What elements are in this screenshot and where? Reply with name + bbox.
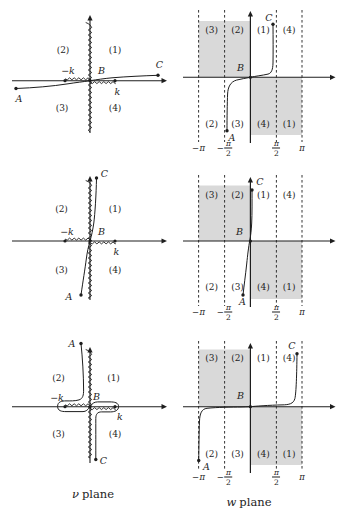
point-C-dot (94, 458, 97, 461)
tick-fraction-numerator: π (272, 140, 280, 149)
band-label-bottom-2: (3) (231, 450, 244, 459)
point-C-dot (95, 176, 98, 179)
point-C-dot (156, 74, 159, 77)
quadrant-label-4: (4) (109, 104, 122, 113)
point-minus-k-dot (63, 405, 66, 408)
tick-fraction: π2 (272, 140, 280, 157)
tick-minus-sign: − (192, 473, 199, 482)
y-axis-arrow (248, 11, 253, 17)
band-label-top-1: (3) (205, 25, 218, 34)
x-axis-arrow (330, 404, 336, 409)
point-minus-k-dot (63, 79, 66, 82)
nu-plane-panel-row2: (1)(2)(3)(4)ABC−kk (0, 170, 178, 340)
band-label-bottom-4: (1) (283, 282, 296, 291)
band-label-top-2: (2) (231, 25, 244, 34)
w-plane-panel-row2: (3)(2)(1)(4)(2)(3)(4)(1)ABC−π−π2π2π (178, 170, 356, 340)
band-label-top-3: (1) (257, 190, 270, 199)
tick-minus-sign: − (217, 308, 224, 317)
tick-minus-sign: − (192, 144, 199, 153)
tick-fraction: π2 (272, 469, 280, 486)
point-C-label: C (100, 456, 107, 466)
band-label-top-2: (2) (231, 354, 244, 363)
w-plane-panel-row1: (3)(2)(1)(4)(2)(3)(4)(1)ABC−π−π2π2π (178, 0, 356, 170)
point-C-label: C (265, 13, 272, 23)
point-k-dot (113, 405, 116, 408)
nu-plane-graphics (0, 170, 178, 352)
nu-plane-graphics (0, 0, 178, 182)
x-axis-arrow (162, 78, 168, 83)
point-B-dot (249, 405, 252, 408)
branch-cut-minus-k-to-origin (65, 78, 90, 80)
caption-w-plane: wplane (227, 495, 272, 509)
band-label-bottom-3: (4) (257, 282, 270, 291)
caption-nu-plane: νplane (72, 487, 114, 501)
point-k-label: k (115, 87, 121, 97)
caption-w-word: plane (239, 495, 271, 509)
tick-pi: π (299, 308, 305, 317)
point-minus-k-label: −k (60, 227, 74, 237)
tick-fraction-denominator: 2 (274, 478, 279, 486)
band-label-top-4: (4) (283, 354, 296, 363)
tick-pi-over-2: π2 (272, 469, 280, 486)
band-label-bottom-1: (2) (205, 450, 218, 459)
point-B-dot (88, 405, 91, 408)
tick-fraction-numerator: π (224, 140, 232, 149)
tick-fraction-numerator: π (224, 304, 232, 313)
x-axis-arrow (162, 238, 168, 243)
tick-value: π (200, 473, 206, 482)
band-label-bottom-3: (4) (257, 119, 270, 128)
tick-pi: π (299, 473, 305, 482)
branch-cut-imaginary-axis (86, 350, 92, 459)
point-C-dot (250, 188, 253, 191)
tick-fraction-numerator: π (224, 469, 232, 478)
point-A-label: A (239, 297, 246, 307)
quadrant-label-3: (3) (52, 429, 65, 438)
band-label-bottom-4: (1) (283, 119, 296, 128)
branch-cut-origin-to-k (90, 408, 115, 410)
point-C-label: C (288, 341, 295, 351)
quadrant-label-1: (1) (109, 46, 122, 55)
tick-neg-pi-over-2: −π2 (217, 304, 233, 321)
quadrant-label-1: (1) (107, 373, 120, 382)
tick-value: π (200, 308, 206, 317)
tick-neg-pi: −π (192, 144, 205, 153)
quadrant-label-3: (3) (55, 266, 68, 275)
point-B-label: B (236, 227, 243, 237)
tick-pi: π (299, 144, 305, 153)
point-A-dot (14, 87, 17, 90)
band-label-bottom-1: (2) (205, 119, 218, 128)
tick-fraction: π2 (224, 140, 232, 157)
band-label-bottom-4: (1) (283, 450, 296, 459)
tick-fraction-denominator: 2 (226, 313, 231, 321)
tick-minus-sign: − (192, 308, 199, 317)
point-B-label: B (237, 63, 244, 73)
tick-fraction-numerator: π (272, 304, 280, 313)
band-label-top-2: (2) (231, 190, 244, 199)
tick-value: π (299, 308, 305, 317)
point-A-dot (197, 459, 200, 462)
tick-fraction: π2 (224, 469, 232, 486)
nu-plane-panel-row1: (1)(2)(3)(4)ABC−kk (0, 0, 178, 170)
band-label-top-3: (1) (257, 354, 270, 363)
branch-cut-origin-to-k (90, 242, 115, 244)
point-k-label: k (117, 412, 123, 422)
band-label-top-1: (3) (205, 190, 218, 199)
band-label-bottom-2: (3) (231, 119, 244, 128)
point-B-dot (249, 239, 252, 242)
tick-pi-over-2: π2 (272, 304, 280, 321)
w-symbol: w (227, 495, 237, 509)
point-minus-k-label: −k (61, 66, 75, 76)
quadrant-label-2: (2) (57, 45, 70, 54)
tick-minus-sign: − (217, 144, 224, 153)
band-label-top-4: (4) (283, 25, 296, 34)
tick-value: π (299, 473, 305, 482)
point-A-label: A (69, 339, 76, 349)
point-A-dot (79, 293, 82, 296)
point-C-label: C (101, 169, 108, 179)
tick-fraction-denominator: 2 (226, 149, 231, 157)
band-label-top-4: (4) (283, 190, 296, 199)
branch-cut-minus-k-to-origin (65, 404, 90, 406)
band-label-bottom-3: (4) (257, 450, 270, 459)
tick-fraction-numerator: π (272, 469, 280, 478)
y-axis-arrow (248, 343, 253, 349)
